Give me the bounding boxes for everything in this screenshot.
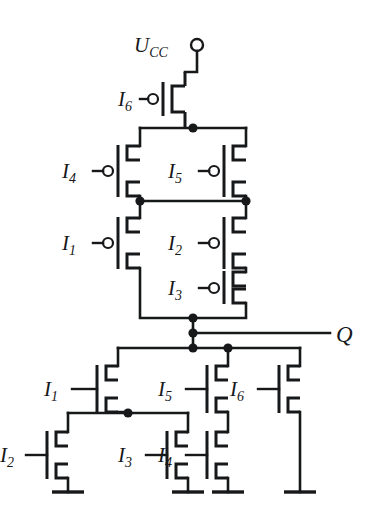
p3-label: I3 [167, 276, 182, 303]
supply-label-sub: CC [149, 45, 168, 60]
n5-drain-channel [216, 366, 228, 380]
supply-label: UCC [134, 33, 169, 60]
p4-label: I4 [61, 159, 76, 186]
n5-source-channel [216, 398, 228, 412]
n6-source-channel [288, 398, 300, 412]
p4-source-channel [127, 182, 140, 196]
nmos-transistor-n4: I4 [157, 431, 244, 492]
p5-label: I5 [167, 159, 182, 186]
n1-source-channel [106, 398, 118, 412]
nmos-transistor-n1: I1 [43, 365, 128, 413]
output-label-q: Q [336, 322, 353, 347]
n2-drain-channel [56, 432, 68, 446]
p1-source-to-output [140, 268, 193, 318]
pmos-transistor-p4: I4 [61, 145, 140, 201]
n3-drain-channel [176, 432, 188, 446]
p1-label-sub: 1 [69, 243, 76, 258]
p3-label-sub: 3 [174, 288, 182, 303]
p4-gate-inversion-bubble [103, 166, 113, 176]
junction-dot-output [188, 328, 197, 337]
pmos-transistor-p3: I3 [167, 271, 246, 318]
n2-source-channel [56, 464, 68, 478]
supply-terminal-open-circle [191, 39, 203, 51]
junction-dot-top-rail [188, 123, 197, 132]
p2-source-channel [233, 254, 246, 268]
n6-drain-channel [288, 366, 300, 380]
n4-source-channel [216, 464, 228, 478]
n1-drain-channel [106, 366, 118, 380]
n4-label: I4 [157, 443, 172, 470]
p5-label-sub: 5 [175, 171, 182, 186]
p6-channel-right [172, 86, 185, 112]
junction-dot-n5-branch [223, 343, 232, 352]
p2-label: I2 [167, 231, 182, 258]
junction-dot-mid-right [241, 196, 250, 205]
pmos-mid-rail [135, 196, 250, 218]
p1-label: I1 [61, 231, 76, 258]
supply-wire-to-p6-drain [185, 51, 197, 72]
nmos-parallel-rail-n2-n3 [68, 408, 188, 432]
n2-label-sub: 2 [7, 455, 14, 470]
supply-label-group: UCC [134, 33, 169, 60]
p2-drain-channel [233, 218, 246, 232]
p3-drain-channel [233, 272, 246, 286]
nmos-transistor-n6: I6 [229, 365, 316, 492]
circuit-diagram: I6 I4 [0, 0, 378, 515]
schematic-canvas: I6 I4 [0, 0, 378, 515]
p1-source-channel [127, 254, 140, 268]
p3-gate-inversion-bubble [209, 283, 219, 293]
p6-label-sub: 6 [125, 99, 132, 114]
p2-gate-inversion-bubble [209, 238, 219, 248]
p3-source-channel [233, 289, 246, 303]
p5-drain-channel [233, 146, 246, 160]
pmos-top-rail [140, 123, 246, 146]
nmos-top-rail [118, 343, 300, 366]
p5-source-channel [233, 182, 246, 196]
p3-source-to-output [193, 303, 246, 318]
p2-label-sub: 2 [175, 243, 182, 258]
n3-label: I3 [117, 443, 132, 470]
p4-drain-channel [127, 146, 140, 160]
junction-dot-n1-source [123, 408, 132, 417]
n4-label-sub: 4 [165, 455, 172, 470]
n6-label-sub: 6 [237, 389, 244, 404]
pmos-transistor-p2: I2 [167, 217, 246, 272]
n5-label-sub: 5 [165, 389, 172, 404]
p6-label: I6 [117, 87, 132, 114]
junction-dot-pmos-drain [188, 313, 197, 322]
n5-label: I5 [157, 377, 172, 404]
nmos-transistor-n5: I5 [157, 365, 228, 432]
n6-label: I6 [229, 377, 244, 404]
p1-gate-inversion-bubble [103, 238, 113, 248]
p6-gate-inversion-bubble [148, 94, 158, 104]
pmos-transistor-p6: I6 [117, 72, 185, 128]
supply-terminal-group [185, 39, 203, 72]
p1-drain-channel [127, 218, 140, 232]
n1-label: I1 [43, 377, 58, 404]
p4-label-sub: 4 [69, 171, 76, 186]
nmos-transistor-n2: I2 [0, 431, 84, 492]
n4-drain-channel [216, 432, 228, 446]
n2-label: I2 [0, 443, 14, 470]
n3-source-channel [176, 464, 188, 478]
junction-dot-mid-left [135, 196, 144, 205]
n3-label-sub: 3 [124, 455, 132, 470]
p5-gate-inversion-bubble [209, 166, 219, 176]
n1-label-sub: 1 [51, 389, 58, 404]
pmos-transistor-p5: I5 [167, 145, 246, 201]
